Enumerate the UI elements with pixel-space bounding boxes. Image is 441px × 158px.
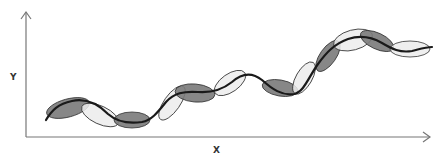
diagram-canvas: Y X: [0, 0, 441, 158]
x-axis-label: X: [213, 145, 220, 155]
y-axis-label: Y: [9, 72, 17, 82]
